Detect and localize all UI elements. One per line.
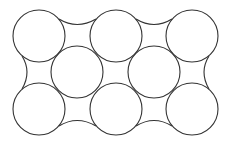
fillet-arcs-group xyxy=(22,19,209,126)
fillet-left xyxy=(22,56,27,89)
fillet-top-1 xyxy=(59,19,96,25)
circle-top-right xyxy=(166,10,218,62)
fillet-bottom-1 xyxy=(59,121,96,127)
circle-middle-right xyxy=(128,46,180,98)
fillet-bottom-2 xyxy=(136,121,172,127)
circle-bottom-left xyxy=(13,83,65,135)
circle-bottom-right xyxy=(166,83,218,135)
fillet-right xyxy=(204,56,209,89)
circle-top-left xyxy=(13,10,65,62)
circles-group xyxy=(13,10,218,135)
circle-bottom-middle xyxy=(90,83,142,135)
circle-middle-left xyxy=(51,46,103,98)
fillet-top-2 xyxy=(136,19,172,25)
circle-packing-diagram xyxy=(0,0,229,143)
circle-top-middle xyxy=(90,10,142,62)
